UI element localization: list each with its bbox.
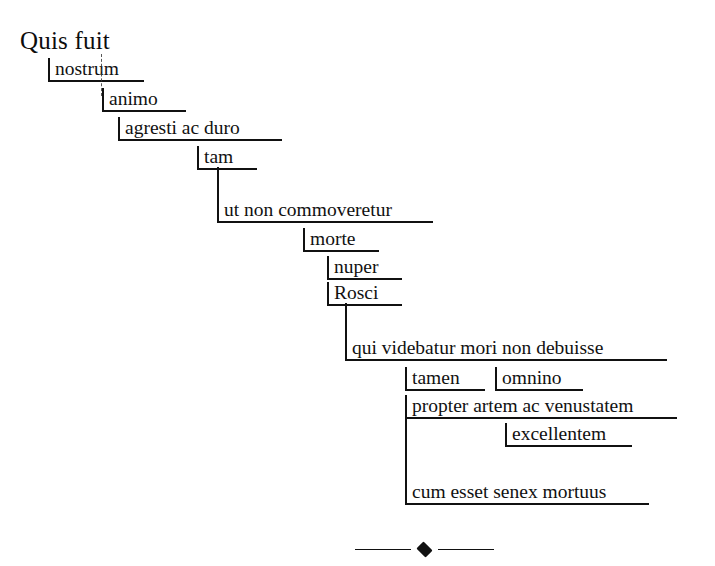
cascade-step-label: nostrum [55,58,119,79]
cascade-step-label: qui videbatur mori non debuisse [352,337,603,358]
divider-rule-left [355,549,411,550]
cascade-step-tamen: tamen [405,367,485,391]
connector-rosci-to-qui [345,303,347,339]
cascade-step-ut-non: ut non commoveretur [217,199,433,223]
root-phrase-quis-fuit: Quis fuit [20,28,110,53]
cascade-step-label: propter artem ac venustatem [412,395,633,416]
divider-rule-right [438,549,494,550]
diamond-divider-ornament [355,543,494,556]
cascade-step-label: morte [310,228,355,249]
cascade-step-agresti: agresti ac duro [118,117,282,141]
cascade-step-nuper: nuper [327,256,402,280]
cascade-step-cum-esset: cum esset senex mortuus [405,481,649,505]
diagram-canvas: Quis fuit nostrumanimoagresti ac durotam… [0,0,715,566]
cascade-step-propter: propter artem ac venustatem [405,395,677,419]
cascade-step-label: tam [204,146,233,167]
cascade-step-qui-videbatur: qui videbatur mori non debuisse [345,337,667,361]
connector-propter-to-cum [405,416,407,483]
connector-nostrum-guide [101,54,102,96]
cascade-step-label: nuper [334,256,378,277]
cascade-step-omnino: omnino [495,367,583,391]
cascade-step-tam: tam [197,146,257,170]
cascade-step-label: omnino [502,367,562,388]
cascade-step-label: tamen [412,367,460,388]
cascade-step-nostrum: nostrum [48,58,144,82]
connector-tam-to-ut [217,167,219,201]
cascade-step-label: Rosci [334,282,378,303]
cascade-step-morte: morte [303,228,379,252]
cascade-step-label: agresti ac duro [125,117,240,138]
cascade-step-label: animo [109,88,158,109]
cascade-step-label: cum esset senex mortuus [412,481,606,502]
cascade-step-excellentem: excellentem [505,423,632,447]
cascade-step-rosci: Rosci [327,282,402,306]
cascade-step-animo: animo [102,88,186,112]
cascade-step-label: ut non commoveretur [224,199,392,220]
cascade-step-label: excellentem [512,423,606,444]
diamond-icon [416,541,432,557]
